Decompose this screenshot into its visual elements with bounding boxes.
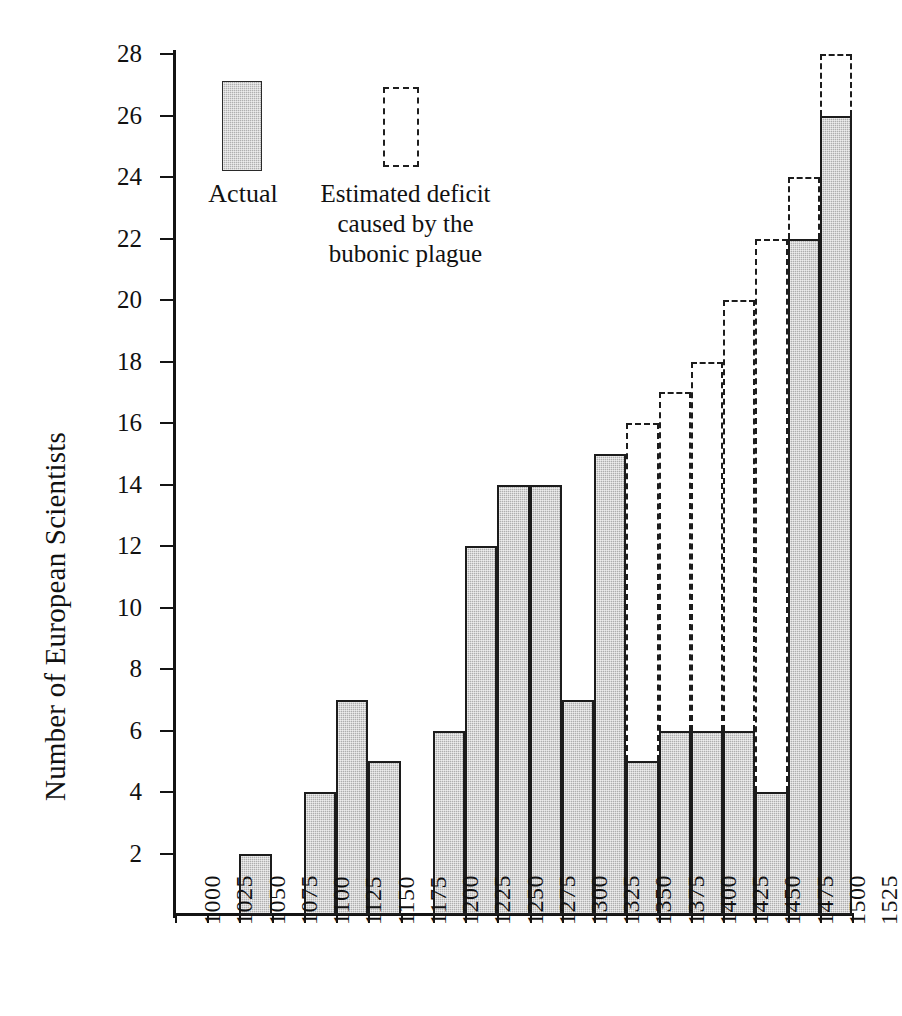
y-axis-tick-label-text: 20: [80, 287, 142, 312]
x-axis-tick: [691, 916, 693, 923]
x-axis-tick: [239, 916, 241, 923]
x-axis-tick-label: 1375: [684, 875, 708, 925]
y-axis-tick-label-text: 8: [80, 656, 142, 681]
estimated-deficit-bar: [820, 54, 852, 116]
y-axis-tick-label: 22: [80, 226, 142, 251]
x-axis-tick-label: 1050: [265, 875, 289, 925]
y-axis-tick-label: 20: [80, 287, 142, 312]
x-axis-tick: [272, 916, 274, 923]
legend-label-actual: Actual: [188, 179, 298, 209]
x-axis-tick-label: 1300: [587, 875, 611, 925]
y-axis-tick-label-text: 10: [80, 595, 142, 620]
y-axis-tick: [160, 791, 174, 793]
x-axis-tick-label: 1100: [329, 876, 353, 925]
estimated-deficit-bar: [788, 177, 820, 239]
bar: [594, 454, 626, 915]
x-axis-tick: [175, 916, 177, 923]
x-axis-tick-label: 1150: [394, 876, 418, 925]
y-axis-tick: [160, 545, 174, 547]
x-axis-tick-label: 1200: [458, 875, 482, 925]
y-axis-tick: [160, 299, 174, 301]
y-axis-tick: [160, 422, 174, 424]
x-axis-tick-label: 1475: [813, 875, 837, 925]
estimated-deficit-bar: [626, 423, 658, 761]
bar: [820, 116, 852, 916]
y-axis-tick: [160, 853, 174, 855]
bar: [497, 485, 529, 916]
legend-swatch-actual: [222, 81, 262, 171]
y-axis-tick-label-text: 26: [80, 103, 142, 128]
x-axis-tick: [207, 916, 209, 923]
x-axis-tick: [465, 916, 467, 923]
x-axis-tick-label: 1125: [361, 876, 385, 925]
y-axis-tick-label-text: 4: [80, 779, 142, 804]
legend-label-estimated: Estimated deficit caused by the bubonic …: [303, 179, 508, 269]
estimated-deficit-bar: [723, 300, 755, 731]
x-axis-tick: [497, 916, 499, 923]
y-axis-tick-label: 16: [80, 410, 142, 435]
x-axis-tick-label: 1225: [490, 875, 514, 925]
estimated-deficit-bar: [659, 392, 691, 730]
y-axis-tick-label: 14: [80, 472, 142, 497]
y-axis-tick-label-text: 14: [80, 472, 142, 497]
x-axis-tick: [820, 916, 822, 923]
y-axis-tick-label-text: 28: [80, 41, 142, 66]
y-axis-tick-label: 8: [80, 656, 142, 681]
y-axis-tick-label-text: 12: [80, 533, 142, 558]
x-axis-tick-label: 1000: [200, 875, 224, 925]
x-axis-tick-label: 1450: [780, 875, 804, 925]
x-axis-tick: [755, 916, 757, 923]
y-axis-tick: [160, 115, 174, 117]
y-axis-tick: [160, 484, 174, 486]
x-axis-tick-label: 1350: [651, 875, 675, 925]
bar: [788, 239, 820, 916]
x-axis-tick: [562, 916, 564, 923]
x-axis-tick-label: 1025: [232, 875, 256, 925]
x-axis-tick: [626, 916, 628, 923]
x-axis-tick: [336, 916, 338, 923]
x-axis-tick: [530, 916, 532, 923]
x-axis-tick: [788, 916, 790, 923]
x-axis-tick: [723, 916, 725, 923]
y-axis-tick: [160, 238, 174, 240]
estimated-deficit-bar: [691, 362, 723, 731]
y-axis-tick-label: 10: [80, 595, 142, 620]
y-axis-tick-label: 26: [80, 103, 142, 128]
legend-label-estimated-line-1: Estimated deficit: [303, 179, 508, 209]
y-axis-tick: [160, 176, 174, 178]
y-axis-tick-label: 12: [80, 533, 142, 558]
x-axis-tick: [433, 916, 435, 923]
x-axis-tick-label: 1175: [426, 876, 450, 925]
y-axis-tick-label: 2: [80, 841, 142, 866]
y-axis-tick-label: 4: [80, 779, 142, 804]
legend-swatch-estimated: [383, 87, 419, 167]
y-axis-tick: [160, 53, 174, 55]
y-axis-tick-label-text: 24: [80, 164, 142, 189]
legend-label-estimated-line-3: bubonic plague: [303, 239, 508, 269]
x-axis-tick: [594, 916, 596, 923]
y-axis-tick: [160, 730, 174, 732]
x-axis-tick-label: 1425: [748, 875, 772, 925]
y-axis-tick-label-text: 22: [80, 226, 142, 251]
x-axis-tick-label: 1325: [619, 875, 643, 925]
y-axis-tick-label-text: 2: [80, 841, 142, 866]
x-axis-tick: [401, 916, 403, 923]
y-axis-tick-label: 24: [80, 164, 142, 189]
y-axis-tick: [160, 668, 174, 670]
y-axis-tick: [160, 361, 174, 363]
x-axis-tick: [659, 916, 661, 923]
x-axis-tick-label: 1275: [555, 875, 579, 925]
y-axis-tick-label: 6: [80, 718, 142, 743]
bar: [530, 485, 562, 916]
x-axis-tick: [852, 916, 854, 923]
x-axis-tick: [304, 916, 306, 923]
y-axis-tick: [160, 607, 174, 609]
x-axis-tick: [368, 916, 370, 923]
x-axis-tick-label: 1250: [523, 875, 547, 925]
x-axis-tick-label: 1500: [845, 875, 869, 925]
y-axis-tick-label-text: 16: [80, 410, 142, 435]
y-axis-title: Number of European Scientists: [39, 307, 72, 927]
legend-label-estimated-line-2: caused by the: [303, 209, 508, 239]
y-axis-tick-label: 18: [80, 349, 142, 374]
